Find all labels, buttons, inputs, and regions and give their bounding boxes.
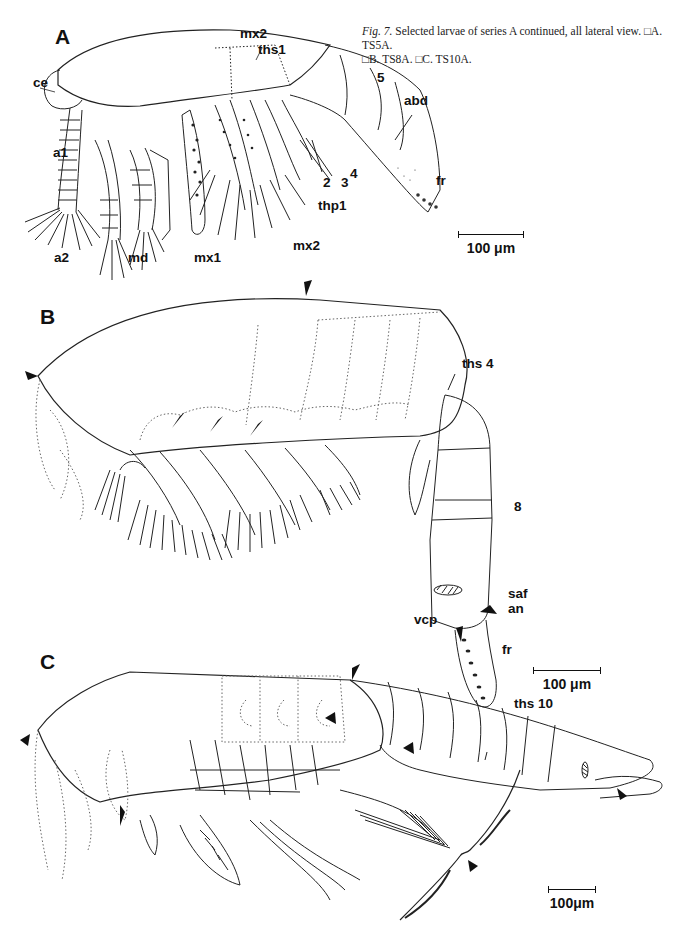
- panel-letter-c: C: [40, 650, 55, 674]
- panel-c-drawing: [20, 664, 662, 920]
- label-b-ths4: ths 4: [462, 356, 494, 371]
- panel-letter-a: A: [55, 25, 70, 49]
- label-a-mx2-bottom: mx2: [293, 238, 320, 253]
- label-a-seg5: 5: [377, 70, 385, 85]
- panel-letter-b: B: [40, 305, 55, 329]
- label-a-ths1: ths1: [258, 42, 286, 57]
- label-a-a1: a1: [53, 145, 68, 160]
- label-a-seg2: 2: [323, 175, 331, 190]
- label-b-an: an: [508, 601, 524, 616]
- panel-a-drawing: [25, 30, 440, 280]
- panel-b-drawing: [25, 280, 497, 707]
- label-a-mx1: mx1: [194, 250, 221, 265]
- label-b-saf: saf: [508, 586, 528, 601]
- label-b-vcp: vcp: [414, 612, 437, 627]
- label-a-abd: abd: [404, 93, 428, 108]
- label-c-ths10: ths 10: [514, 696, 553, 711]
- label-a-seg3: 3: [341, 175, 349, 190]
- scale-bar-b: 100 μm: [533, 670, 601, 696]
- label-a-md: md: [128, 250, 148, 265]
- larva-drawings: [0, 0, 690, 943]
- scale-bar-c: 100μm: [548, 889, 596, 915]
- label-a-mx2-top: mx2: [240, 26, 267, 41]
- label-a-a2: a2: [54, 250, 69, 265]
- label-a-fr: fr: [436, 173, 446, 188]
- label-a-seg4: 4: [350, 166, 358, 181]
- scale-bar-a: 100 μm: [458, 234, 524, 260]
- label-b-seg8: 8: [514, 499, 522, 514]
- label-a-ce: ce: [33, 75, 48, 90]
- label-a-thp1: thp1: [318, 198, 347, 213]
- label-b-fr: fr: [502, 642, 512, 657]
